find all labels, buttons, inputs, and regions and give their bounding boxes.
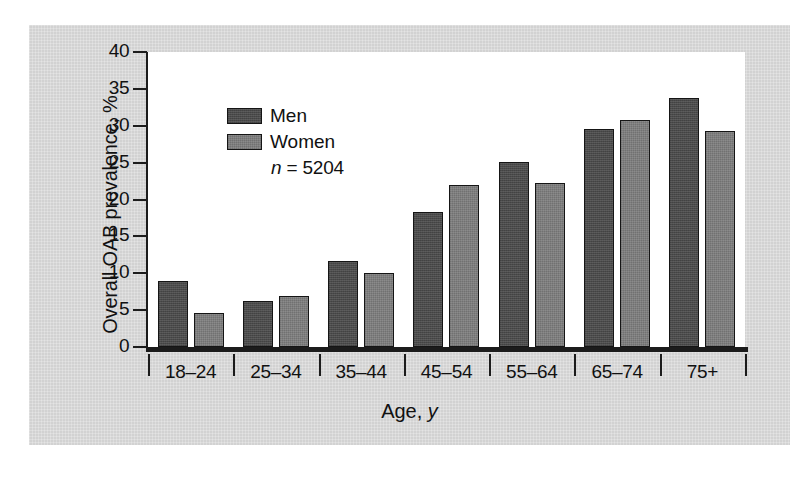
bars-area [148,52,745,347]
sample-size-value: = 5204 [281,157,344,178]
y-tick-mark [133,346,147,348]
bar-men-35-44[interactable] [328,261,358,347]
y-axis-title: Overall OAB prevalence, % [99,65,122,365]
bar-women-65-74[interactable] [620,120,650,347]
bar-men-25-34[interactable] [243,301,273,347]
y-tick-mark [133,199,147,201]
legend-swatch-men [227,108,262,124]
bar-women-25-34[interactable] [279,296,309,347]
sample-size-italic-n: n [271,157,281,178]
y-tick-mark [133,235,147,237]
bar-men-18-24[interactable] [158,281,188,347]
x-axis-title-text: Age, [381,400,428,422]
legend-swatch-women [227,134,262,150]
bar-men-55-64[interactable] [499,162,529,347]
bar-group [319,52,404,347]
bar-men-65-74[interactable] [584,129,614,347]
y-tick-mark [133,51,147,53]
legend-label-women: Women [270,131,335,153]
bar-group [148,52,233,347]
y-tick-mark [133,272,147,274]
legend-item-men: Men [227,105,344,127]
bar-men-45-54[interactable] [413,212,443,347]
bar-women-55-64[interactable] [535,183,565,347]
x-axis-line [146,347,748,352]
x-axis-title-italic: y [428,400,438,422]
x-tick-label: 75+ [652,361,752,383]
y-tick-mark [133,162,147,164]
bar-group [574,52,659,347]
bar-group [489,52,574,347]
bar-women-18-24[interactable] [194,313,224,347]
bar-group [660,52,745,347]
bar-men-75+[interactable] [669,98,699,347]
bar-women-75+[interactable] [705,131,735,347]
legend: Men Women n = 5204 [227,105,344,179]
bar-group [233,52,318,347]
x-axis-title: Age, y [29,400,790,423]
y-tick-mark [133,125,147,127]
legend-item-women: Women [227,131,344,153]
bar-women-45-54[interactable] [449,185,479,347]
bar-group [404,52,489,347]
y-tick-label: 40 [87,40,129,62]
bar-women-35-44[interactable] [364,273,394,347]
sample-size-annotation: n = 5204 [271,157,344,179]
y-tick-mark [133,309,147,311]
legend-label-men: Men [270,105,307,127]
y-tick-mark [133,88,147,90]
figure-canvas: 0510152025303540 Overall OAB prevalence,… [29,25,790,445]
